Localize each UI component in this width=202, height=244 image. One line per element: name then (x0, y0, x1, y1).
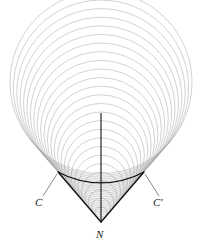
leader-line-Cp (145, 174, 159, 196)
caustic-diagram-svg (0, 0, 202, 244)
label-C-prime: C′ (153, 197, 163, 208)
figure-container: C C′ N (0, 0, 202, 244)
leader-line-C (43, 174, 57, 196)
label-N: N (96, 229, 103, 240)
label-C: C (35, 197, 42, 208)
